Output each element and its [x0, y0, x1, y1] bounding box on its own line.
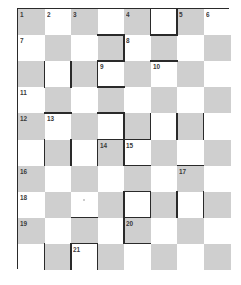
grid-cell-r4-c2[interactable]: [71, 113, 98, 140]
grid-cell-r1-c5[interactable]: [151, 35, 178, 62]
grid-cell-r3-c0[interactable]: 11: [18, 87, 45, 114]
bar-vertical: [150, 113, 152, 140]
grid-cell-r4-c7[interactable]: [204, 113, 231, 140]
grid-cell-r3-c1[interactable]: [45, 87, 72, 114]
grid-cell-r2-c3[interactable]: 9: [98, 61, 125, 88]
bar-vertical: [203, 113, 205, 140]
grid-cell-r4-c0[interactable]: 12: [18, 113, 45, 140]
grid-cell-r5-c2[interactable]: [71, 140, 98, 167]
grid-cell-r6-c7[interactable]: [204, 166, 231, 193]
grid-cell-r6-c0[interactable]: 16: [18, 166, 45, 193]
grid-cell-r4-c6[interactable]: [177, 113, 204, 140]
grid-cell-r9-c3[interactable]: [98, 244, 125, 271]
grid-cell-r5-c7[interactable]: [204, 140, 231, 167]
grid-cell-r7-c0[interactable]: 18: [18, 192, 45, 219]
bar-horizontal: [177, 165, 205, 167]
grid-cell-r5-c3[interactable]: 14: [98, 140, 125, 167]
grid-cell-r4-c5[interactable]: [151, 113, 178, 140]
grid-cell-r1-c2[interactable]: [71, 35, 98, 62]
grid-cell-r8-c5[interactable]: [151, 218, 178, 245]
grid-cell-r7-c2[interactable]: [71, 192, 98, 219]
grid-cell-r8-c3[interactable]: [98, 218, 125, 245]
grid-cell-r3-c2[interactable]: [71, 87, 98, 114]
grid-cell-r5-c4[interactable]: 15: [124, 140, 151, 167]
grid-cell-r0-c1[interactable]: 2: [45, 9, 72, 36]
grid-cell-r1-c6[interactable]: [177, 35, 204, 62]
bar-horizontal: [97, 60, 125, 62]
grid-cell-r3-c3[interactable]: [98, 87, 125, 114]
grid-cell-r9-c0[interactable]: [18, 244, 45, 271]
grid-cell-r7-c4[interactable]: [124, 192, 151, 219]
grid-cell-r3-c4[interactable]: [124, 87, 151, 114]
grid-cell-r2-c1[interactable]: [45, 61, 72, 88]
grid-cell-r6-c6[interactable]: 17: [177, 166, 204, 193]
grid-cell-r2-c4[interactable]: [124, 61, 151, 88]
grid-cell-r9-c2[interactable]: 21: [71, 244, 98, 271]
grid-cell-r1-c7[interactable]: [204, 35, 231, 62]
grid-cell-r0-c7[interactable]: 6: [204, 9, 231, 36]
grid-cell-r7-c7[interactable]: [204, 192, 231, 219]
bar-horizontal: [97, 86, 125, 88]
bar-vertical: [150, 9, 152, 36]
grid-cell-r4-c1[interactable]: 13: [45, 113, 72, 140]
grid-cell-r9-c6[interactable]: [177, 244, 204, 271]
grid-cell-r9-c4[interactable]: [124, 244, 151, 271]
grid-cell-r8-c0[interactable]: 19: [18, 218, 45, 245]
grid-cell-r4-c3[interactable]: [98, 113, 125, 140]
grid-cell-r1-c4[interactable]: 8: [124, 35, 151, 62]
grid-cell-r0-c5[interactable]: [151, 9, 178, 36]
grid-cell-r7-c6[interactable]: [177, 192, 204, 219]
clue-number: 10: [153, 63, 160, 71]
grid-cell-r5-c5[interactable]: [151, 140, 178, 167]
bar-vertical: [70, 61, 72, 88]
grid-cell-r9-c5[interactable]: [151, 244, 178, 271]
bar-vertical: [70, 243, 72, 270]
bar-horizontal: [97, 112, 125, 114]
grid-cell-r8-c6[interactable]: [177, 218, 204, 245]
grid-cell-r5-c6[interactable]: [177, 140, 204, 167]
bar-vertical: [97, 139, 99, 166]
grid-cell-r8-c1[interactable]: [45, 218, 72, 245]
grid-cell-r3-c5[interactable]: [151, 87, 178, 114]
bar-vertical: [203, 191, 205, 218]
clue-number: 2: [47, 11, 51, 19]
grid-cell-r2-c6[interactable]: [177, 61, 204, 88]
bar-horizontal: [71, 243, 99, 245]
bar-vertical: [44, 61, 46, 88]
grid-cell-r7-c5[interactable]: [151, 192, 178, 219]
grid-cell-r2-c2[interactable]: [71, 61, 98, 88]
clue-number: 14: [100, 142, 107, 150]
grid-cell-r0-c0[interactable]: 1: [18, 9, 45, 36]
clue-number: 9: [100, 63, 104, 71]
grid-cell-r6-c3[interactable]: [98, 166, 125, 193]
grid-cell-r0-c6[interactable]: 5: [177, 9, 204, 36]
grid-cell-r2-c7[interactable]: [204, 61, 231, 88]
grid-cell-r6-c5[interactable]: [151, 166, 178, 193]
clue-number: 8: [126, 37, 130, 45]
grid-cell-r0-c2[interactable]: 3: [71, 9, 98, 36]
grid-cell-r5-c1[interactable]: [45, 140, 72, 167]
grid-cell-r7-c1[interactable]: [45, 192, 72, 219]
clue-number: 12: [20, 115, 27, 123]
grid-cell-r9-c7[interactable]: [204, 244, 231, 271]
grid-cell-r1-c0[interactable]: 7: [18, 35, 45, 62]
grid-cell-r3-c7[interactable]: [204, 87, 231, 114]
bar-vertical: [123, 191, 125, 218]
grid-cell-r2-c0[interactable]: [18, 61, 45, 88]
grid-cell-r8-c2[interactable]: [71, 218, 98, 245]
grid-cell-r6-c2[interactable]: [71, 166, 98, 193]
grid-cell-r2-c5[interactable]: 10: [151, 61, 178, 88]
grid-cell-r9-c1[interactable]: [45, 244, 72, 271]
grid-cell-r8-c4[interactable]: 20: [124, 218, 151, 245]
grid-cell-r0-c3[interactable]: [98, 9, 125, 36]
grid-cell-r8-c7[interactable]: [204, 218, 231, 245]
grid-cell-r5-c0[interactable]: [18, 140, 45, 167]
grid-cell-r6-c4[interactable]: [124, 166, 151, 193]
grid-cell-r1-c1[interactable]: [45, 35, 72, 62]
grid-cell-r1-c3[interactable]: [98, 35, 125, 62]
grid-cell-r6-c1[interactable]: [45, 166, 72, 193]
grid-cell-r7-c3[interactable]: [98, 192, 125, 219]
grid-cell-r3-c6[interactable]: [177, 87, 204, 114]
grid-cell-r0-c4[interactable]: 4: [124, 9, 151, 36]
grid-cell-r4-c4[interactable]: [124, 113, 151, 140]
